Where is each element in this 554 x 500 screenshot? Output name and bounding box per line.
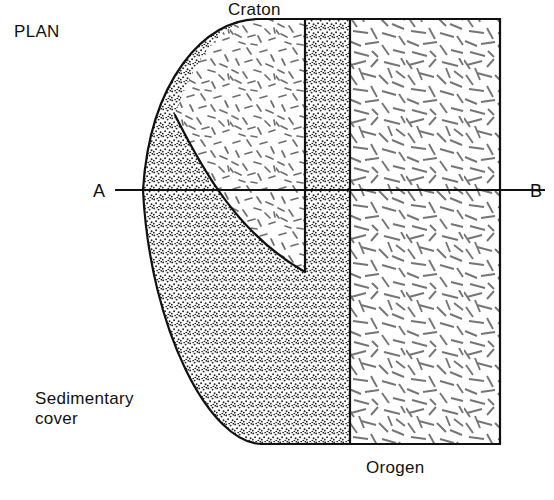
page-title: PLAN — [14, 22, 60, 41]
section-label-a: A — [93, 181, 105, 201]
section-label-b: B — [530, 181, 542, 201]
label-sedimentary-cover-line2: cover — [35, 409, 78, 428]
label-craton: Craton — [228, 0, 281, 19]
diagram-canvas: PLAN Craton Sedimentary cover Orogen A B — [0, 0, 554, 500]
orogen-region — [350, 15, 510, 450]
label-orogen: Orogen — [366, 458, 425, 477]
label-sedimentary-cover: Sedimentary — [35, 389, 134, 408]
